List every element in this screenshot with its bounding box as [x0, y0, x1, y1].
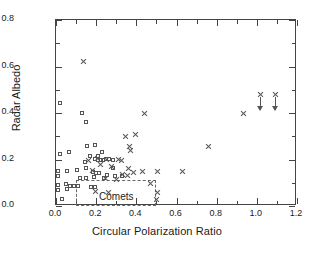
- data-point-cross: [153, 196, 160, 203]
- x-tick-top: [116, 20, 117, 24]
- data-point-square: [56, 188, 60, 192]
- y-tick: [56, 136, 60, 137]
- x-tick: [237, 201, 238, 205]
- x-tick-top: [277, 20, 278, 24]
- y-tick-right: [292, 136, 296, 137]
- y-tick-right: [292, 43, 296, 44]
- data-point-cross: [124, 172, 131, 179]
- data-point-square: [84, 120, 88, 124]
- x-tick-top: [237, 20, 238, 24]
- data-point-cross: [240, 110, 247, 117]
- data-point-square: [100, 150, 104, 154]
- data-point-square: [93, 143, 97, 147]
- data-point-cross: [205, 143, 212, 150]
- y-tick: [56, 113, 62, 114]
- upper-limit-arrow: [260, 97, 261, 110]
- data-point-cross: [108, 163, 115, 170]
- data-point-cross: [179, 168, 186, 175]
- x-tick-top: [217, 20, 218, 26]
- x-tick: [56, 198, 57, 204]
- x-tick: [297, 198, 298, 204]
- x-tick-top: [297, 20, 298, 26]
- data-point-square: [56, 183, 60, 187]
- y-tick-right: [289, 206, 295, 207]
- data-point-square: [97, 171, 101, 175]
- data-point-square: [67, 150, 71, 154]
- y-tick-label: 0.4: [0, 106, 14, 116]
- y-tick-right: [289, 160, 295, 161]
- y-tick-right: [289, 113, 295, 114]
- x-tick-label: 1.2: [276, 208, 314, 218]
- data-point-square: [84, 166, 88, 170]
- data-point-square: [58, 152, 62, 156]
- data-point-square: [60, 197, 64, 201]
- data-point-cross: [122, 133, 129, 140]
- y-tick-label: 0.0: [0, 199, 14, 209]
- y-tick-label: 0.6: [0, 60, 14, 70]
- data-point-square: [85, 144, 89, 148]
- y-tick: [56, 43, 60, 44]
- data-point-cross: [113, 176, 120, 183]
- data-point-cross: [102, 175, 109, 182]
- data-point-cross: [105, 189, 112, 196]
- y-tick-right: [289, 20, 295, 21]
- data-point-cross: [103, 156, 110, 163]
- data-point-square: [78, 176, 82, 180]
- x-tick-top: [76, 20, 77, 24]
- upper-limit-arrow: [275, 97, 276, 110]
- y-tick: [56, 90, 60, 91]
- y-tick-label: 0.2: [0, 153, 14, 163]
- y-tick-right: [292, 90, 296, 91]
- data-point-cross: [147, 180, 154, 187]
- data-point-cross: [139, 168, 146, 175]
- x-tick-label: 1.0: [236, 208, 276, 218]
- data-point-cross: [92, 188, 99, 195]
- x-tick: [197, 201, 198, 205]
- data-point-cross: [127, 147, 134, 154]
- x-tick-label: 0.2: [75, 208, 115, 218]
- data-point-cross: [130, 169, 137, 176]
- x-tick-top: [257, 20, 258, 26]
- x-tick-label: 0.4: [115, 208, 155, 218]
- data-point-square: [76, 184, 80, 188]
- data-point-square: [75, 168, 79, 172]
- y-tick-label: 0.8: [0, 13, 14, 23]
- x-tick: [177, 198, 178, 204]
- y-tick-right: [292, 183, 296, 184]
- data-point-square: [92, 175, 96, 179]
- x-tick-top: [136, 20, 137, 26]
- x-tick: [257, 198, 258, 204]
- y-axis-title: Radar Albedo: [10, 38, 22, 158]
- x-tick-label: 0.8: [196, 208, 236, 218]
- x-tick-top: [197, 20, 198, 24]
- data-point-square: [56, 174, 60, 178]
- data-point-square: [56, 169, 60, 173]
- plot-area: Comets: [55, 19, 296, 205]
- x-tick: [217, 198, 218, 204]
- y-tick-right: [289, 67, 295, 68]
- x-tick-top: [177, 20, 178, 26]
- x-tick: [277, 201, 278, 205]
- data-point-cross: [80, 58, 87, 65]
- y-tick: [56, 206, 62, 207]
- y-tick: [56, 67, 62, 68]
- y-tick: [56, 160, 62, 161]
- data-point-cross: [141, 110, 148, 117]
- data-point-square: [58, 101, 62, 105]
- data-point-square: [65, 169, 69, 173]
- x-tick-top: [156, 20, 157, 24]
- data-point-cross: [118, 157, 125, 164]
- y-tick: [56, 20, 62, 21]
- data-point-cross: [89, 167, 96, 174]
- data-point-cross: [154, 168, 161, 175]
- radar-albedo-scatter-figure: Comets Radar Albedo Circular Polarizatio…: [0, 0, 314, 253]
- data-point-square: [84, 176, 88, 180]
- data-point-cross: [85, 157, 92, 164]
- data-point-cross: [94, 155, 101, 162]
- x-tick-top: [96, 20, 97, 26]
- data-point-square: [80, 111, 84, 115]
- x-tick-label: 0.6: [156, 208, 196, 218]
- x-tick-label: 0.0: [35, 208, 75, 218]
- data-point-cross: [132, 131, 139, 138]
- x-axis-title: Circular Polarization Ratio: [0, 225, 314, 237]
